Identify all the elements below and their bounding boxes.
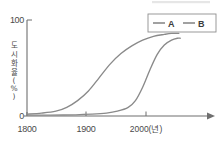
y-axis-title-char-1: 시 (11, 50, 18, 59)
x-axis-arrowhead (207, 112, 215, 119)
chart-canvas: 100 0 1800 1900 2000(년) 도 시 화 율 ( % ) A … (0, 0, 222, 142)
scan-artifact-top (152, 1, 210, 3)
y-axis-title-char-6: ) (13, 92, 16, 101)
urbanization-rate-chart: 100 0 1800 1900 2000(년) 도 시 화 율 ( % ) A … (0, 0, 222, 142)
legend-label-a: A (168, 19, 175, 29)
y-axis-title-char-0: 도 (11, 41, 18, 50)
y-axis-label-0: 0 (19, 111, 24, 121)
series-line-b (27, 38, 180, 115)
y-axis-label-100: 100 (10, 15, 24, 25)
series-line-a (27, 33, 179, 114)
legend: A B (148, 14, 216, 32)
legend-label-b: B (198, 19, 205, 29)
x-axis-label-2000: 2000(년) (130, 124, 163, 134)
y-axis-title-char-2: 화 (11, 59, 18, 68)
y-axis-title: 도 시 화 율 ( % ) (10, 41, 17, 101)
x-axis-label-1800: 1800 (18, 124, 37, 134)
x-axis-label-1900: 1900 (77, 124, 96, 134)
